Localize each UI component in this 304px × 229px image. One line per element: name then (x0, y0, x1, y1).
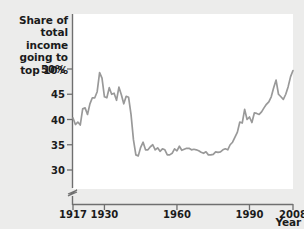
chart-figure: Share of total income going to top 10% Y… (0, 0, 304, 229)
y-axis-break-icon (68, 190, 77, 196)
data-series-line (73, 71, 293, 156)
chart-plot (0, 0, 304, 229)
